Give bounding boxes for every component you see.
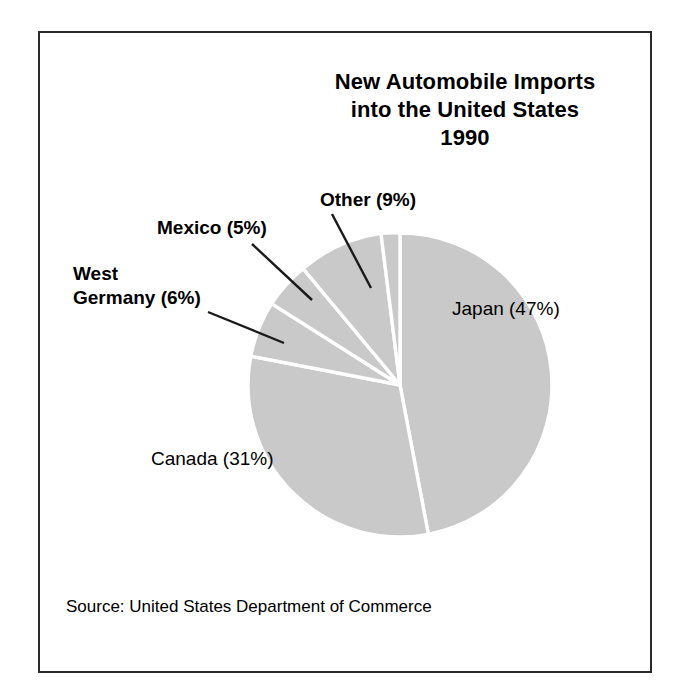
source-note: Source: United States Department of Comm… [66,597,432,617]
pie-label-japan: Japan (47%) [452,297,560,321]
figure-root: New Automobile Imports into the United S… [0,0,688,694]
pie-label-west-germany: West Germany (6%) [73,262,201,310]
pie-label-mexico: Mexico (5%) [157,216,267,240]
pie-slice-japan [400,233,552,534]
pie-chart [0,0,688,694]
pie-label-canada: Canada (31%) [151,447,274,471]
pie-label-other: Other (9%) [320,188,416,212]
